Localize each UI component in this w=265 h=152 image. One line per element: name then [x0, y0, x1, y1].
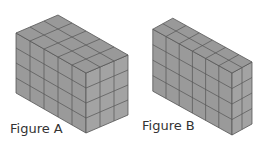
figure-b-label: Figure B — [142, 119, 195, 132]
figure-a-label: Figure A — [10, 122, 63, 135]
figure-diagram: Figure A Figure B — [0, 0, 265, 152]
